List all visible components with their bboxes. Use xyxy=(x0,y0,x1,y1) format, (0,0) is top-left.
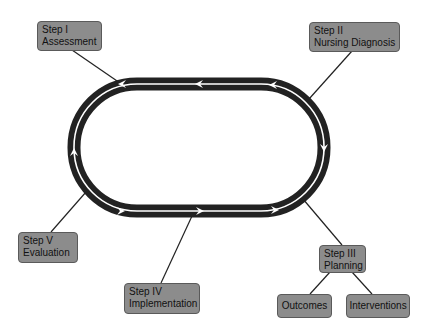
node-step1-title: Step I xyxy=(42,24,97,36)
node-step3-label: Planning xyxy=(324,260,361,272)
node-interventions-label: Interventions xyxy=(349,300,406,312)
cycle-ring xyxy=(74,84,324,211)
node-step2-title: Step II xyxy=(314,25,395,37)
node-outcomes: Outcomes xyxy=(277,294,332,318)
node-step1-assessment: Step I Assessment xyxy=(37,21,102,51)
node-interventions: Interventions xyxy=(346,294,410,318)
connector-outcomes xyxy=(310,272,330,294)
cycle-arrows xyxy=(70,80,328,215)
node-step4-implementation: Step IV Implementation xyxy=(124,283,200,314)
node-step2-label: Nursing Diagnosis xyxy=(314,37,395,49)
connector-step4 xyxy=(161,216,192,283)
node-step3-planning: Step III Planning xyxy=(319,245,366,273)
connector-step3 xyxy=(303,199,342,245)
connector-interventions xyxy=(352,272,372,294)
connector-step5 xyxy=(51,192,86,232)
node-step5-title: Step V xyxy=(23,235,73,247)
node-step5-label: Evaluation xyxy=(23,247,73,259)
connector-step2 xyxy=(309,51,352,99)
node-outcomes-label: Outcomes xyxy=(282,300,328,312)
node-step2-nursing-diagnosis: Step II Nursing Diagnosis xyxy=(309,22,400,52)
node-step3-title: Step III xyxy=(324,248,361,260)
node-step5-evaluation: Step V Evaluation xyxy=(18,232,78,263)
node-step4-title: Step IV xyxy=(129,286,195,298)
connector-step1 xyxy=(72,50,120,83)
node-step1-label: Assessment xyxy=(42,36,97,48)
node-step4-label: Implementation xyxy=(129,298,195,310)
cycle-track xyxy=(74,84,324,211)
